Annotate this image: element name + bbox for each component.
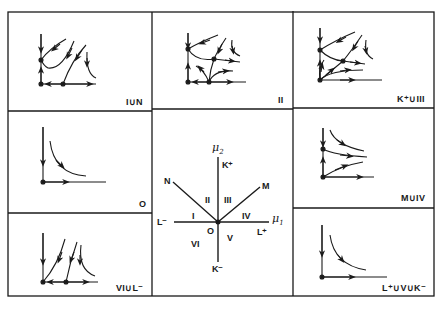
phase-portrait-II [186, 33, 246, 84]
parameter-plane [173, 157, 269, 262]
panel-label-M-union-IV: M∪IV [401, 193, 425, 203]
origin-label: O [207, 226, 214, 236]
ray-N [173, 182, 218, 222]
ray-label-N: N [164, 176, 171, 186]
region-label-III: III [224, 195, 232, 205]
phase-portrait-O [41, 127, 106, 184]
panel-label-K-plus-union-III: K⁺∪III [397, 94, 425, 104]
panel-label-II: II [278, 95, 284, 105]
phase-portrait-K-plus-union-III [318, 28, 382, 82]
region-label-V: V [227, 233, 233, 243]
phase-portrait-L-plus-union-V-union-K-minus [320, 225, 387, 279]
ray-label-K-minus: K⁻ [212, 264, 224, 274]
region-label-I: I [192, 211, 195, 221]
region-label-VI: VI [191, 239, 200, 249]
panel-label-L-plus-union-V-union-K-minus: L⁺∪V∪K⁻ [382, 283, 426, 293]
region-label-II: II [205, 195, 210, 205]
mu1-axis-label: μ1 [272, 212, 284, 227]
ray-label-M: M [262, 181, 270, 191]
panel-label-VI-union-L-minus: VI∪L⁻ [116, 283, 144, 293]
region-label-IV: IV [242, 211, 251, 221]
panel-label-I-union-N: I∪N [126, 97, 143, 107]
phase-portrait-M-union-IV [321, 128, 374, 179]
ray-label-L-plus: L⁺ [257, 227, 268, 237]
origin-dot [216, 220, 220, 224]
mu2-axis-label: μ2 [212, 141, 224, 156]
phase-portrait-I-union-N [39, 34, 96, 86]
phase-portrait-VI-union-L-minus [41, 233, 98, 284]
ray-label-L-minus: L⁻ [157, 217, 168, 227]
ray-label-K-plus: K⁺ [222, 160, 234, 170]
panel-label-O: O [139, 199, 146, 209]
